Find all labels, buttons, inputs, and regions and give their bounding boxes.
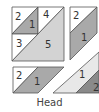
label-main-5: 5 bbox=[45, 39, 51, 50]
quilt-block-diagram: 2 1 4 3 5 2 1 2 1 1 2 bbox=[0, 0, 99, 112]
label-main-1: 1 bbox=[29, 19, 35, 30]
label-main-3: 3 bbox=[16, 38, 22, 49]
label-bottom-left-2: 2 bbox=[16, 70, 22, 81]
label-right-2: 2 bbox=[73, 10, 79, 21]
label-right-1: 1 bbox=[81, 32, 87, 43]
diagram-caption: Head bbox=[0, 97, 99, 108]
label-bottom-right-2: 2 bbox=[93, 82, 99, 93]
label-bottom-left-1: 1 bbox=[34, 76, 40, 87]
label-bottom-right-1: 1 bbox=[79, 69, 85, 80]
label-main-2: 2 bbox=[15, 11, 21, 22]
label-main-4: 4 bbox=[43, 9, 49, 20]
